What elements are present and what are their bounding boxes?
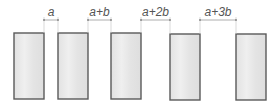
rectangle-5 [236,34,266,100]
gap-label: a [48,5,55,19]
spacing-diagram: aa+ba+2ba+3b [0,0,272,110]
gap-label: a+3b [204,5,231,19]
gap-dimension-1: a [43,5,59,33]
dimension-tick [199,19,201,21]
dimension-tick [43,19,45,21]
rectangle-2 [58,33,88,99]
dimension-tick [87,19,89,21]
gap-dimension-4: a+3b [199,5,237,34]
gap-dimension-2: a+b [87,5,112,33]
dimension-tick [169,19,171,21]
gap-label: a+b [89,5,110,19]
rectangle-3 [111,33,141,99]
rectangle-4 [170,34,200,100]
dimension-annotations: aa+ba+2ba+3b [43,5,237,34]
dimension-tick [110,19,112,21]
dimension-tick [140,19,142,21]
gap-dimension-3: a+2b [140,5,171,34]
rectangles [14,33,266,100]
dimension-tick [235,19,237,21]
gap-label: a+2b [142,5,169,19]
dimension-tick [57,19,59,21]
rectangle-1 [14,33,44,99]
